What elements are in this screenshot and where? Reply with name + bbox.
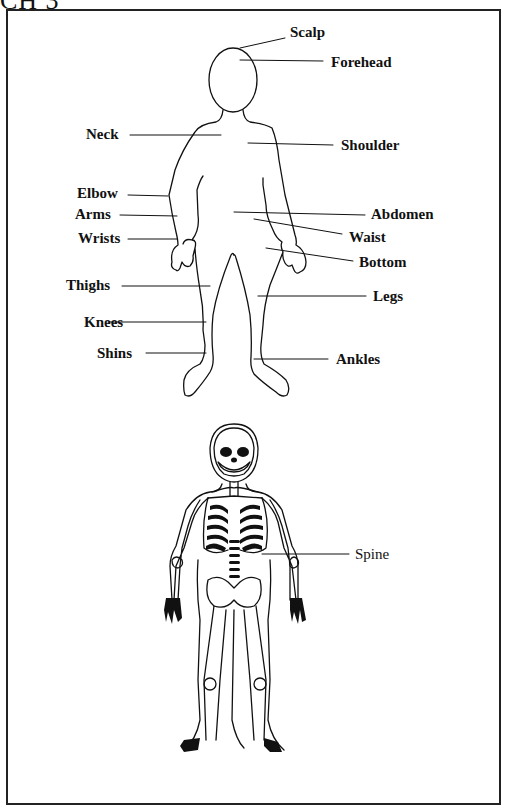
label-forehead: Forehead [331,55,392,70]
body-right-outline [234,110,306,396]
head-outline [209,48,257,112]
label-scalp: Scalp [290,25,325,40]
eye-socket-right [237,447,249,457]
label-abdomen: Abdomen [371,207,434,222]
eye-socket-left [220,447,232,457]
body-diagram [0,0,506,809]
skull-outline [210,424,258,482]
skeleton-hand-left [164,598,182,624]
body-outline-figure [169,48,306,396]
skeleton-hand-right [290,598,306,624]
skeleton-foot-left [180,738,200,752]
pelvis-outline [207,577,261,607]
label-shoulder: Shoulder [341,138,399,153]
label-ankles: Ankles [336,352,380,367]
label-waist: Waist [349,230,386,245]
label-thighs: Thighs [66,278,110,293]
label-arms: Arms [75,207,111,222]
label-elbow: Elbow [77,186,118,201]
label-bottom: Bottom [359,255,407,270]
label-spine: Spine [355,547,389,562]
label-neck: Neck [86,127,119,142]
label-wrists: Wrists [78,231,120,246]
skeleton-figure [170,424,299,750]
leader-lines [108,38,366,554]
label-shins: Shins [97,346,132,361]
label-legs: Legs [373,289,403,304]
label-knees: Knees [84,315,123,330]
